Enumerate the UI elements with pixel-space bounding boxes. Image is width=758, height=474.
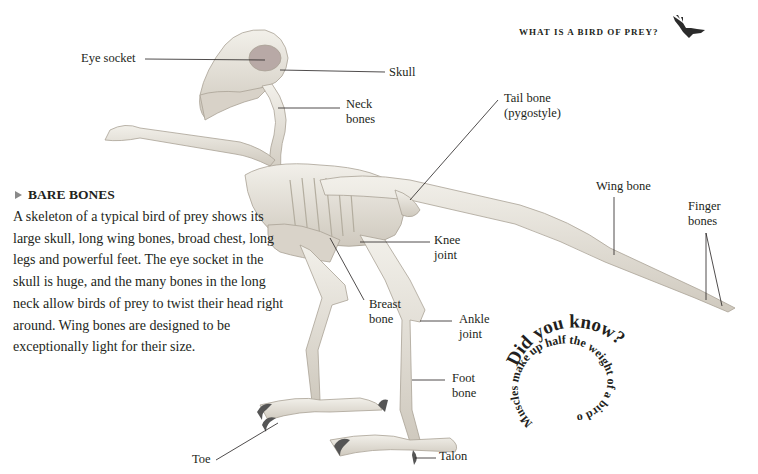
label-ankle-joint-line2: joint — [459, 327, 490, 342]
label-neck-bones-line1: Neck — [346, 97, 375, 112]
label-toe: Toe — [192, 452, 211, 467]
label-knee-joint-line1: Knee — [434, 233, 460, 248]
bare-bones-body: A skeleton of a typical bird of prey sho… — [13, 206, 285, 358]
bare-bones-title: BARE BONES — [28, 185, 115, 205]
label-wing-bone: Wing bone — [596, 179, 651, 194]
label-eye-socket: Eye socket — [81, 51, 136, 66]
label-knee-joint-line2: joint — [434, 248, 460, 263]
triangle-right-icon — [15, 191, 22, 199]
label-tail-bone-line1: Tail bone — [504, 91, 561, 106]
label-breast-bone-line2: bone — [369, 312, 401, 327]
label-foot-bone-line1: Foot — [452, 371, 476, 386]
bare-bones-heading: BARE BONES — [13, 185, 298, 205]
label-knee-joint: Knee joint — [434, 233, 460, 263]
label-finger-bones: Finger bones — [688, 199, 721, 229]
label-neck-bones-line2: bones — [346, 112, 375, 127]
label-tail-bone: Tail bone (pygostyle) — [504, 91, 561, 121]
label-finger-bones-line2: bones — [688, 214, 721, 229]
label-ankle-joint-line1: Ankle — [459, 312, 490, 327]
did-you-know-spiral: Did you know? Muscles make up half the w… — [495, 305, 660, 470]
label-tail-bone-line2: (pygostyle) — [504, 106, 561, 121]
bare-bones-panel: BARE BONES A skeleton of a typical bird … — [13, 185, 298, 358]
label-neck-bones: Neck bones — [346, 97, 375, 127]
label-ankle-joint: Ankle joint — [459, 312, 490, 342]
label-skull: Skull — [389, 65, 415, 80]
label-finger-bones-line1: Finger — [688, 199, 721, 214]
label-breast-bone-line1: Breast — [369, 297, 401, 312]
label-talon: Talon — [439, 449, 467, 464]
label-breast-bone: Breast bone — [369, 297, 401, 327]
label-foot-bone: Foot bone — [452, 371, 476, 401]
label-foot-bone-line2: bone — [452, 386, 476, 401]
